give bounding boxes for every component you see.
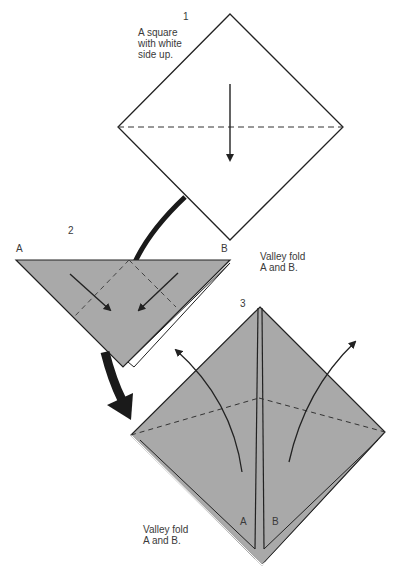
step2-corner-b: B xyxy=(221,243,228,254)
transition-arrow-1-2 xyxy=(135,197,185,262)
step3-caption-line2: A and B. xyxy=(143,535,181,546)
step3-flap-a: A xyxy=(240,516,247,527)
step3-caption-line1: Valley fold xyxy=(143,524,188,535)
step2-corner-a: A xyxy=(16,243,23,254)
origami-diagram xyxy=(0,0,399,583)
step2-caption-line1: Valley fold xyxy=(260,251,305,262)
step-number-2: 2 xyxy=(68,225,74,236)
step3-flap-b: B xyxy=(272,516,279,527)
step2-caption-line2: A and B. xyxy=(260,262,298,273)
step1-caption-line2: with white xyxy=(138,38,182,49)
step2-triangle xyxy=(16,260,230,367)
step-number-3: 3 xyxy=(240,298,246,309)
step1-caption-line3: side up. xyxy=(138,49,173,60)
step1-caption-line1: A square xyxy=(138,27,177,38)
step-number-1: 1 xyxy=(183,11,189,22)
